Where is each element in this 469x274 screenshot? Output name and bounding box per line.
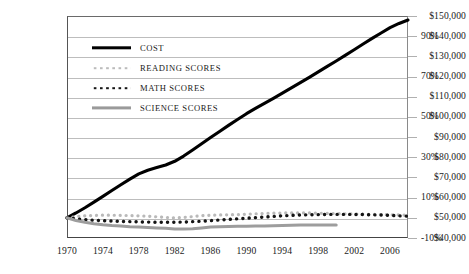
legend-label: MATH SCORES [140,83,205,93]
legend-label: READING SCORES [140,63,221,73]
legend-swatch-line [92,46,131,49]
legend-swatch-icon [92,63,131,74]
legend-label: COST [140,43,164,53]
chart-legend: COSTREADING SCORESMATH SCORESSCIENCE SCO… [92,38,221,118]
legend-swatch-line [92,86,131,90]
legend-swatch-icon [92,43,131,54]
legend-swatch-icon [92,103,131,114]
series-line-science-scores [67,218,336,229]
legend-item-science-scores[interactable]: SCIENCE SCORES [92,98,221,118]
legend-swatch-icon [92,83,131,94]
legend-label: SCIENCE SCORES [140,103,218,113]
legend-item-reading-scores[interactable]: READING SCORES [92,58,221,78]
legend-item-cost[interactable]: COST [92,38,221,58]
legend-swatch-line [92,106,131,109]
legend-item-math-scores[interactable]: MATH SCORES [92,78,221,98]
legend-swatch-line [92,66,131,70]
